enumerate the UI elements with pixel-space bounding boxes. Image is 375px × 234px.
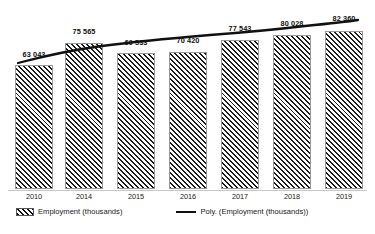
value-label-2019: 82 360 [333,14,356,23]
legend-label-employment: Employment (thousands) [38,208,122,216]
x-tick-2018: 2018 [284,192,300,201]
x-tick-2010: 2010 [26,192,42,201]
plot-area: 63 043 75 565 69 533 70 420 77 543 80 02… [0,0,375,190]
x-axis-labels: 2010 2014 2015 2016 2017 2018 2019 [0,190,375,208]
x-tick-2016: 2016 [180,192,196,201]
x-tick-2014: 2014 [76,192,92,201]
x-tick-2017: 2017 [232,192,248,201]
x-tick-2019: 2019 [336,192,352,201]
value-label-2018: 80 028 [281,19,304,28]
line-swatch-icon [176,211,196,213]
value-label-2010: 63 043 [23,50,46,59]
legend-item-poly-trend[interactable]: Poly. (Employment (thousands)) [176,208,308,216]
x-tick-2015: 2015 [128,192,144,201]
legend-label-poly-trend: Poly. (Employment (thousands)) [200,208,308,216]
value-labels-layer: 63 043 75 565 69 533 70 420 77 543 80 02… [0,0,375,190]
value-label-2014: 75 565 [73,27,96,36]
value-label-2015: 69 533 [125,38,148,47]
chart-legend: Employment (thousands) Poly. (Employment… [0,208,375,228]
value-label-2016: 70 420 [177,36,200,45]
legend-item-employment[interactable]: Employment (thousands) [16,208,122,216]
value-label-2017: 77 543 [229,24,252,33]
employment-bar-chart: 63 043 75 565 69 533 70 420 77 543 80 02… [0,0,375,234]
hatch-swatch-icon [16,208,34,216]
